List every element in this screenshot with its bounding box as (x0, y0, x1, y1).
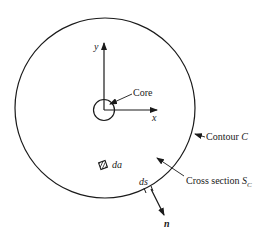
core-leader-arrow (110, 94, 132, 104)
line-element-label: ds (139, 176, 148, 187)
contour-symbol: C (241, 131, 248, 142)
cross-section-subscript: C (247, 181, 252, 189)
contour-circle (15, 18, 195, 198)
normal-label: n (164, 218, 170, 229)
normal-arrow (151, 189, 164, 215)
core-label: Core (133, 87, 153, 98)
contour-label: Contour C (206, 131, 248, 142)
cross-section-diagram: y x Core Contour C Cross section SC da d… (0, 0, 262, 240)
diagram-svg: y x Core Contour C Cross section SC da d… (0, 0, 262, 240)
contour-leader-arrow (195, 134, 205, 137)
area-element-hatched (99, 161, 108, 170)
cross-section-leader-arrow (157, 158, 184, 176)
cross-section-label: Cross section SC (186, 175, 252, 189)
y-axis-label: y (93, 41, 99, 52)
x-axis-label: x (151, 112, 157, 123)
area-element-label: da (112, 159, 122, 170)
